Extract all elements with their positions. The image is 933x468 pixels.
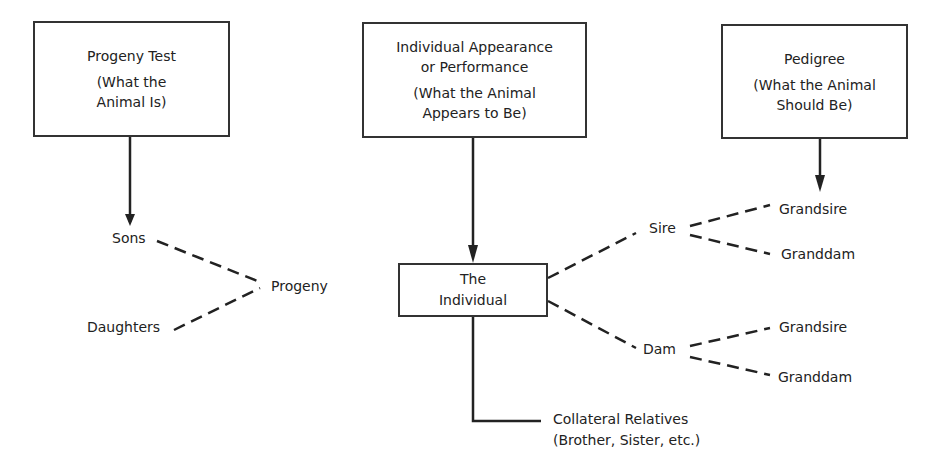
individual-appearance-box: Individual Appearance or Performance (Wh… — [362, 22, 587, 138]
individual-dam-dash — [548, 301, 636, 348]
collateral-line-2: (Brother, Sister, etc.) — [553, 430, 700, 451]
progeny-test-subtitle-1: (What the — [97, 72, 167, 92]
appearance-title-2: or Performance — [421, 57, 529, 77]
label-sire: Sire — [649, 219, 676, 237]
label-daughters: Daughters — [87, 318, 160, 336]
appearance-title-1: Individual Appearance — [396, 37, 553, 57]
dam-grandsire-dash — [690, 328, 770, 346]
progeny-test-title: Progeny Test — [87, 46, 176, 66]
progeny-test-subtitle-2: Animal Is) — [97, 92, 167, 112]
label-dam-granddam: Granddam — [778, 368, 852, 386]
collateral-line-1: Collateral Relatives — [553, 409, 700, 430]
the-individual-box: The Individual — [398, 263, 548, 317]
label-collateral-relatives: Collateral Relatives (Brother, Sister, e… — [553, 409, 700, 451]
label-sire-grandsire: Grandsire — [779, 200, 847, 218]
sons-progeny-dash — [157, 241, 260, 282]
progeny-test-box: Progeny Test (What the Animal Is) — [33, 21, 230, 137]
label-progeny: Progeny — [271, 277, 328, 295]
individual-line-1: The — [460, 269, 486, 290]
label-dam: Dam — [643, 340, 676, 358]
label-sons: Sons — [112, 229, 146, 247]
sire-granddam-dash — [690, 235, 770, 254]
appearance-subtitle-1: (What the Animal — [413, 83, 536, 103]
collateral-connector — [473, 316, 541, 421]
individual-sire-dash — [548, 233, 636, 278]
dam-granddam-dash — [690, 357, 770, 375]
pedigree-title: Pedigree — [784, 49, 845, 69]
pedigree-box: Pedigree (What the Animal Should Be) — [721, 24, 908, 139]
label-sire-granddam: Granddam — [781, 245, 855, 263]
sire-grandsire-dash — [690, 205, 770, 226]
appearance-subtitle-2: Appears to Be) — [422, 103, 526, 123]
pedigree-subtitle-1: (What the Animal — [753, 75, 876, 95]
daughters-progeny-dash — [174, 288, 260, 330]
pedigree-subtitle-2: Should Be) — [776, 95, 852, 115]
individual-line-2: Individual — [439, 290, 507, 311]
label-dam-grandsire: Grandsire — [779, 318, 847, 336]
